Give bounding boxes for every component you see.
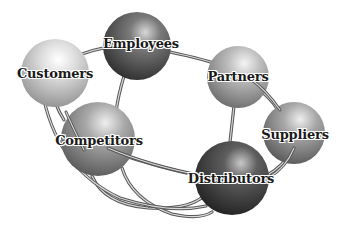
- label-competitors: Competitors: [55, 133, 143, 148]
- label-employees: Employees: [103, 36, 179, 51]
- network-diagram: Customers Employees Partners Competitors…: [0, 0, 348, 236]
- label-suppliers: Suppliers: [261, 127, 329, 142]
- label-partners: Partners: [208, 69, 269, 84]
- label-customers: Customers: [17, 66, 93, 81]
- label-distributors: Distributors: [188, 171, 274, 186]
